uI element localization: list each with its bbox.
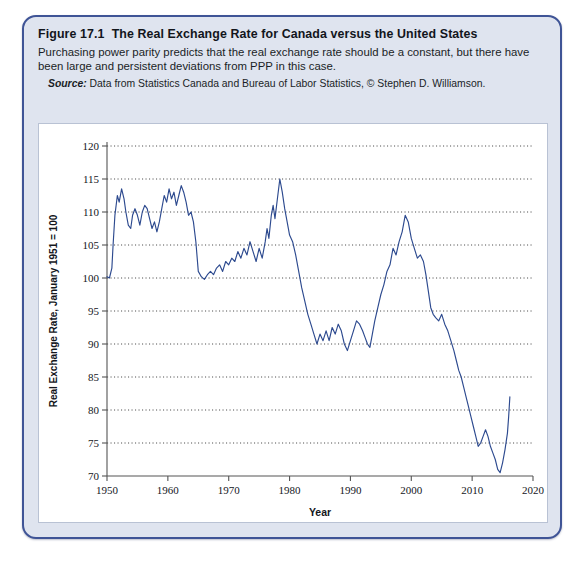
series-line-real-exchange-rate bbox=[107, 179, 510, 473]
figure-root: Figure 17.1 The Real Exchange Rate for C… bbox=[0, 0, 584, 571]
svg-text:70: 70 bbox=[88, 470, 100, 482]
svg-text:1950: 1950 bbox=[96, 484, 119, 496]
svg-text:100: 100 bbox=[83, 272, 100, 284]
svg-text:1990: 1990 bbox=[339, 484, 362, 496]
svg-text:1980: 1980 bbox=[279, 484, 302, 496]
svg-text:1960: 1960 bbox=[157, 484, 180, 496]
plot-card: 707580859095100105110115120 195019601970… bbox=[38, 123, 548, 523]
svg-text:1970: 1970 bbox=[218, 484, 241, 496]
svg-text:2020: 2020 bbox=[522, 484, 545, 496]
svg-text:120: 120 bbox=[83, 140, 100, 152]
svg-text:75: 75 bbox=[88, 437, 100, 449]
y-axis-tick-labels: 707580859095100105110115120 bbox=[83, 140, 100, 482]
line-chart: 707580859095100105110115120 195019601970… bbox=[39, 124, 547, 522]
svg-text:95: 95 bbox=[88, 305, 100, 317]
svg-text:85: 85 bbox=[88, 371, 100, 383]
figure-title: The Real Exchange Rate for Canada versus… bbox=[112, 27, 478, 41]
svg-text:2010: 2010 bbox=[461, 484, 484, 496]
figure-source: Source: Data from Statistics Canada and … bbox=[48, 77, 548, 90]
figure-number: Figure 17.1 bbox=[38, 27, 105, 41]
axis-ticks bbox=[102, 146, 533, 481]
svg-text:90: 90 bbox=[88, 338, 100, 350]
svg-text:115: 115 bbox=[83, 173, 100, 185]
figure-panel: Figure 17.1 The Real Exchange Rate for C… bbox=[22, 15, 562, 539]
x-axis-title: Year bbox=[309, 506, 331, 518]
figure-header: Figure 17.1 The Real Exchange Rate for C… bbox=[38, 27, 548, 90]
x-axis-tick-labels: 19501960197019801990200020102020 bbox=[96, 484, 545, 496]
svg-text:105: 105 bbox=[83, 239, 100, 251]
source-label: Source: bbox=[48, 78, 87, 89]
svg-text:80: 80 bbox=[88, 404, 100, 416]
figure-caption: Purchasing power parity predicts that th… bbox=[38, 45, 548, 73]
axes bbox=[107, 142, 533, 476]
source-text: Data from Statistics Canada and Bureau o… bbox=[90, 78, 486, 89]
gridlines bbox=[107, 146, 533, 443]
svg-text:2000: 2000 bbox=[400, 484, 423, 496]
svg-text:110: 110 bbox=[83, 206, 100, 218]
figure-title-line: Figure 17.1 The Real Exchange Rate for C… bbox=[38, 27, 548, 42]
y-axis-title: Real Exchange Rate, January 1951 = 100 bbox=[48, 214, 59, 407]
